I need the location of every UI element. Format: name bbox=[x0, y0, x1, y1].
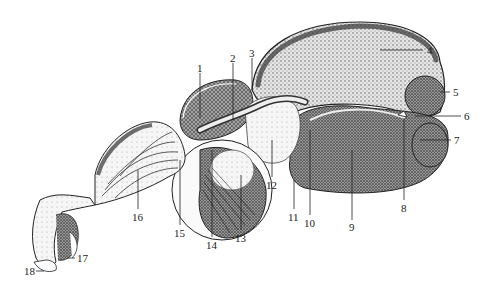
label-14: 14 bbox=[206, 240, 217, 251]
omasum bbox=[172, 140, 272, 240]
label-1: 1 bbox=[197, 63, 203, 74]
label-6: 6 bbox=[464, 111, 470, 122]
label-18: 18 bbox=[24, 266, 35, 277]
anatomy-illustration bbox=[0, 0, 498, 299]
label-3: 3 bbox=[249, 48, 255, 59]
label-15: 15 bbox=[174, 228, 185, 239]
caudodorsal-blind-sac bbox=[405, 76, 445, 116]
label-5: 5 bbox=[453, 87, 459, 98]
label-7: 7 bbox=[454, 135, 460, 146]
label-16: 16 bbox=[132, 212, 143, 223]
label-9: 9 bbox=[349, 222, 355, 233]
label-2: 2 bbox=[230, 53, 236, 64]
label-12: 12 bbox=[266, 180, 277, 191]
label-10: 10 bbox=[304, 218, 315, 229]
label-8: 8 bbox=[401, 203, 407, 214]
label-13: 13 bbox=[235, 233, 246, 244]
label-17: 17 bbox=[77, 253, 88, 264]
label-4: 4 bbox=[427, 45, 433, 56]
label-11: 11 bbox=[288, 212, 299, 223]
